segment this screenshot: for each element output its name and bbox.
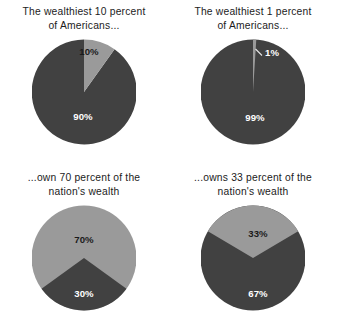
pie-label-dark-top-left: 90% xyxy=(73,111,93,122)
panel-own-70-percent: ...own 70 percent of thenation's wealth … xyxy=(0,166,168,331)
pie-chart-top-left: 10% 90% xyxy=(32,39,136,145)
panel-wealthiest-1-percent: The wealthiest 1 percentof Americans... … xyxy=(169,0,337,165)
pie-label-light-top-right: 1% xyxy=(265,47,279,58)
panel-wealthiest-10-percent: The wealthiest 10 percentof Americans...… xyxy=(0,0,168,165)
pie-label-light-bottom-right: 33% xyxy=(248,228,268,239)
pie-label-dark-bottom-right: 67% xyxy=(248,288,268,299)
panel-caption-bottom-right: ...owns 33 percent of thenation's wealth xyxy=(169,171,337,198)
pie-label-light-bottom-left: 70% xyxy=(74,234,94,245)
panel-caption-top-right: The wealthiest 1 percentof Americans... xyxy=(169,5,337,32)
pie-label-dark-top-right: 99% xyxy=(245,112,265,123)
pie-chart-bottom-left: 70% 30% xyxy=(32,205,136,311)
pie-chart-bottom-right: 33% 67% xyxy=(201,205,305,311)
panel-owns-33-percent: ...owns 33 percent of thenation's wealth… xyxy=(169,166,337,331)
pie-label-dark-bottom-left: 30% xyxy=(74,288,94,299)
pie-label-light-top-left: 10% xyxy=(79,46,99,57)
panel-caption-top-left: The wealthiest 10 percentof Americans... xyxy=(0,5,168,32)
panel-caption-bottom-left: ...own 70 percent of thenation's wealth xyxy=(0,171,168,198)
pie-chart-figure: The wealthiest 10 percentof Americans...… xyxy=(0,0,337,331)
pie-chart-top-right: 1% 99% xyxy=(201,39,305,145)
